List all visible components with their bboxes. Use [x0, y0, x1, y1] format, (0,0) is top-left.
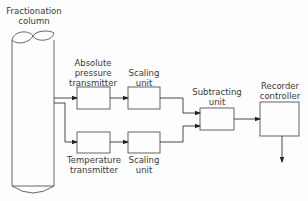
temperature-label-line2: transmitter — [63, 165, 125, 175]
temperature-label-line1: Temperature — [63, 155, 125, 165]
scaling-unit-top-label: Scaling unit — [118, 68, 170, 88]
pressure-label-line2: pressure — [63, 68, 123, 78]
scaling-top-label-line2: unit — [118, 78, 170, 88]
scaling-bottom-label-line1: Scaling — [118, 155, 170, 165]
temperature-transmitter-label: Temperature transmitter — [63, 155, 125, 175]
pressure-transmitter-box — [77, 87, 110, 109]
subtracting-label-line1: Subtracting — [187, 87, 247, 97]
column-label-line2: column — [1, 16, 67, 26]
recorder-controller-label: Recorder controller — [251, 81, 308, 101]
subtracting-label-line2: unit — [187, 97, 247, 107]
fractionation-column-shape — [12, 31, 54, 193]
scaling-top-label-line1: Scaling — [118, 68, 170, 78]
subtracting-unit-label: Subtracting unit — [187, 87, 247, 107]
pressure-label-line3: transmitter — [63, 78, 123, 88]
scaling-unit-top-box — [128, 87, 160, 109]
pressure-transmitter-label: Absolute pressure transmitter — [63, 58, 123, 88]
column-label: Fractionation column — [1, 6, 67, 26]
scaling-bottom-label-line2: unit — [118, 165, 170, 175]
recorder-label-line1: Recorder — [251, 81, 308, 91]
pressure-label-line1: Absolute — [63, 58, 123, 68]
recorder-label-line2: controller — [251, 91, 308, 101]
subtracting-unit-box — [200, 108, 234, 130]
scaling-unit-bottom-box — [128, 132, 160, 153]
temperature-transmitter-box — [77, 132, 110, 153]
recorder-controller-box — [260, 102, 299, 136]
scaling-unit-bottom-label: Scaling unit — [118, 155, 170, 175]
process-diagram: Fractionation column Absolute pressure t… — [0, 0, 308, 201]
column-label-line1: Fractionation — [1, 6, 67, 16]
